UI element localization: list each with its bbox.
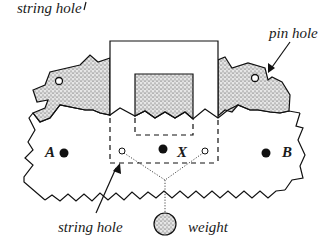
weight-ball bbox=[154, 213, 176, 235]
point-b-label: B bbox=[282, 145, 292, 160]
dotted-strings bbox=[124, 153, 203, 213]
string-hole-bottom-arrow-line bbox=[96, 168, 116, 213]
left-pin-hole bbox=[56, 78, 63, 85]
point-b-dot bbox=[262, 149, 271, 158]
string-hole-bottom-label: string hole bbox=[58, 220, 123, 235]
string-hole-top-label: string hole bbox=[17, 1, 82, 16]
right-pin-hole bbox=[252, 75, 259, 82]
left-zigzag-edge bbox=[24, 113, 45, 200]
right-stippled-lobe bbox=[218, 57, 290, 116]
point-a-label: A bbox=[45, 145, 55, 160]
diagram-canvas: string hole pin hole string hole weight … bbox=[0, 0, 330, 247]
string-hole-top-arrow bbox=[84, 2, 86, 10]
point-a-dot bbox=[60, 149, 69, 158]
weight-label: weight bbox=[188, 220, 228, 235]
pin-hole-label: pin hole bbox=[269, 26, 318, 41]
pin-hole-arrow-line bbox=[270, 42, 290, 70]
dashed-inner-box bbox=[135, 118, 193, 135]
point-x-label: X bbox=[177, 145, 187, 160]
point-x-dot bbox=[159, 145, 168, 154]
